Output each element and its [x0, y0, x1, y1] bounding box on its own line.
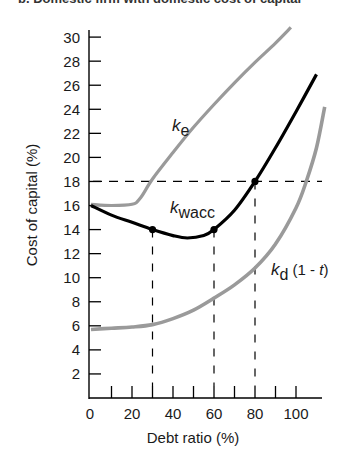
x-tick-label: 80 — [247, 405, 264, 422]
y-tick-label: 4 — [72, 341, 80, 358]
y-tick-label: 12 — [63, 245, 80, 262]
data-marker — [251, 178, 258, 185]
x-tick-label: 40 — [165, 405, 182, 422]
y-tick-label: 30 — [63, 29, 80, 46]
y-tick-label: 26 — [63, 77, 80, 94]
ke-label: ke — [172, 116, 190, 139]
y-tick-label: 28 — [63, 53, 80, 70]
y-tick-label: 8 — [72, 293, 80, 310]
kd-label: kd (1 - t) — [271, 260, 328, 283]
data-marker — [210, 226, 217, 233]
x-tick-label: 20 — [124, 405, 141, 422]
y-tick-label: 6 — [72, 317, 80, 334]
chart: 24681012141618202224262830 020406080100 … — [0, 0, 359, 471]
y-tick-label: 10 — [63, 269, 80, 286]
ke-curve — [91, 27, 291, 205]
x-axis-label: Debt ratio (%) — [147, 429, 240, 446]
y-tick-label: 24 — [63, 101, 80, 118]
y-tick-label: 20 — [63, 149, 80, 166]
y-tick-label: 16 — [63, 197, 80, 214]
x-tick-label: 100 — [283, 405, 308, 422]
series-lines — [91, 27, 325, 329]
x-axis: 020406080100 — [86, 386, 322, 422]
y-tick-label: 2 — [72, 365, 80, 382]
y-axis: 24681012141618202224262830 — [63, 29, 101, 399]
data-marker — [149, 226, 156, 233]
y-tick-label: 22 — [63, 125, 80, 142]
y-tick-label: 18 — [63, 173, 80, 190]
kwacc-label: kwacc — [170, 198, 215, 221]
x-tick-label: 0 — [86, 405, 94, 422]
x-tick-label: 60 — [206, 405, 223, 422]
series-labels: kekwacckd (1 - t) — [170, 116, 328, 283]
y-tick-label: 14 — [63, 221, 80, 238]
y-axis-label: Cost of capital (%) — [23, 144, 40, 267]
